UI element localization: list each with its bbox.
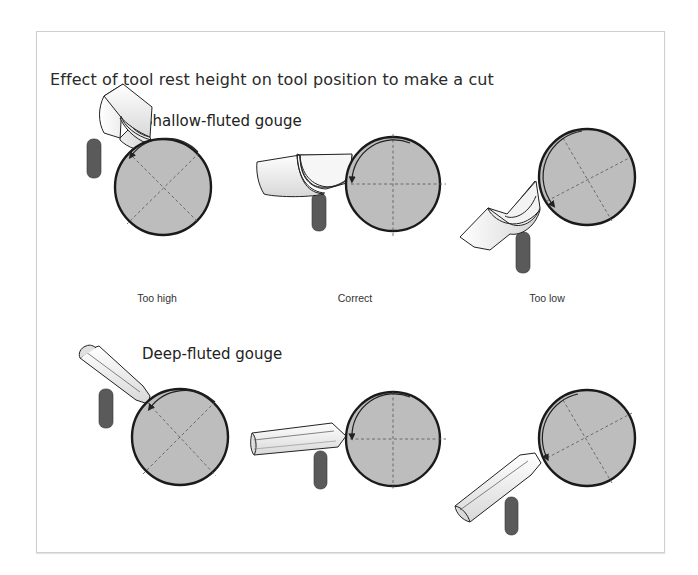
panel-deep-correct [251,392,446,490]
tool-rest [505,497,518,535]
deep-gouge [251,423,346,455]
tool-rest [312,193,326,231]
workpiece [539,129,635,225]
tool-rest [87,139,101,178]
diagram-canvas [0,0,698,575]
workpiece [539,390,635,486]
panel-deep-too-high [79,345,228,485]
tool-rest [516,232,530,273]
tool-rest [314,451,327,489]
deep-gouge [79,345,150,404]
panel-shallow-correct [257,134,446,238]
deep-gouge [455,453,541,522]
shallow-gouge [257,154,352,197]
panel-shallow-too-low [460,129,635,273]
shallow-gouge [100,84,153,151]
panel-deep-too-low [455,390,635,535]
tool-rest [99,389,113,428]
panel-shallow-too-high [87,84,211,235]
